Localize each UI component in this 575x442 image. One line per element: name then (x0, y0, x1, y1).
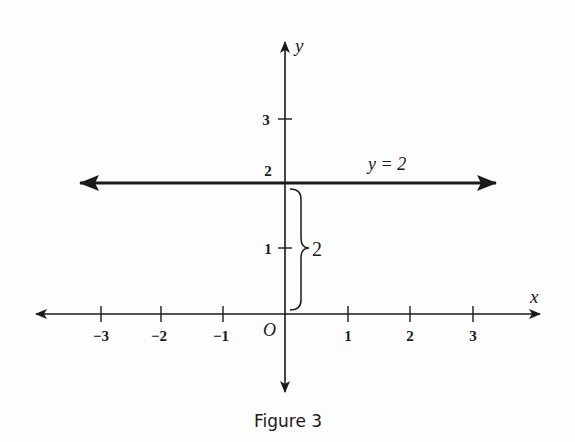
x-tick-label: 3 (469, 328, 477, 344)
y-axis-label: y (293, 35, 304, 56)
line-equation-label: y = 2 (366, 154, 406, 174)
x-tick-label: −2 (151, 328, 167, 344)
x-tick-label: 2 (406, 328, 414, 344)
brace-icon (290, 189, 309, 310)
coordinate-plane: −3 −2 −1 1 2 3 1 2 3 x y O y = 2 2 Figur… (0, 0, 575, 442)
origin-label: O (263, 320, 276, 340)
y-tick-label: 3 (262, 112, 270, 128)
figure-caption: Figure 3 (254, 411, 322, 431)
brace-distance-label: 2 (312, 238, 322, 260)
x-tick-label: −1 (213, 328, 229, 344)
y-tick-label: 1 (264, 241, 272, 257)
x-tick-label: 1 (344, 328, 352, 344)
x-tick-label: −3 (93, 328, 109, 344)
x-axis-label: x (529, 286, 539, 307)
figure-3: −3 −2 −1 1 2 3 1 2 3 x y O y = 2 2 Figur… (0, 0, 575, 442)
y-tick-label: 2 (264, 163, 272, 179)
